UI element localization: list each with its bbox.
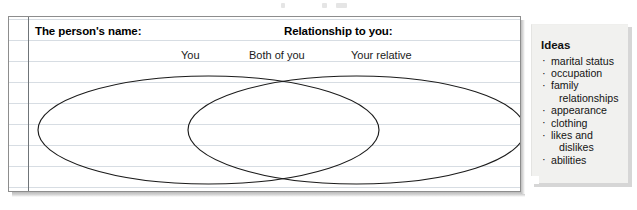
list-item: · family relationships: [541, 79, 622, 104]
bullet-icon: ·: [542, 116, 546, 128]
list-item: · marital status: [541, 55, 622, 67]
list-item: · clothing: [541, 117, 622, 129]
list-item-label-continuation: dislikes: [551, 141, 622, 153]
bullet-icon: ·: [542, 129, 546, 141]
list-item: · likes and dislikes: [541, 129, 622, 154]
list-item-label: occupation: [551, 67, 602, 79]
page-drop-shadow: [12, 192, 525, 197]
list-item: · appearance: [541, 104, 622, 116]
bullet-icon: ·: [542, 104, 546, 116]
list-item-label: clothing: [551, 117, 588, 129]
note-corner-cut: [531, 176, 539, 184]
cropped-text-ghost: [0, 0, 637, 14]
worksheet-page: The person's name: Relationship to you: …: [8, 16, 521, 192]
ideas-note: Ideas · marital status · occupation · fa…: [531, 24, 628, 183]
list-item: · abilities: [541, 154, 622, 166]
page-right-edge-shadow: [521, 20, 525, 194]
bullet-icon: ·: [542, 54, 546, 66]
list-item-label: abilities: [551, 154, 586, 166]
list-item: · occupation: [541, 67, 622, 79]
bullet-icon: ·: [542, 153, 546, 165]
bullet-icon: ·: [542, 67, 546, 79]
venn-diagram: [9, 17, 521, 192]
ideas-note-title: Ideas: [541, 39, 622, 52]
bullet-icon: ·: [542, 79, 546, 91]
list-item-label-continuation: relationships: [551, 92, 622, 104]
venn-ellipse-you: [38, 76, 379, 184]
list-item-label: marital status: [551, 55, 614, 67]
list-item-label: likes and: [551, 129, 593, 141]
venn-ellipse-your-relative: [188, 76, 521, 184]
list-item-label: appearance: [551, 104, 607, 116]
ideas-list: · marital status · occupation · family r…: [541, 55, 622, 167]
list-item-label: family: [551, 79, 579, 91]
